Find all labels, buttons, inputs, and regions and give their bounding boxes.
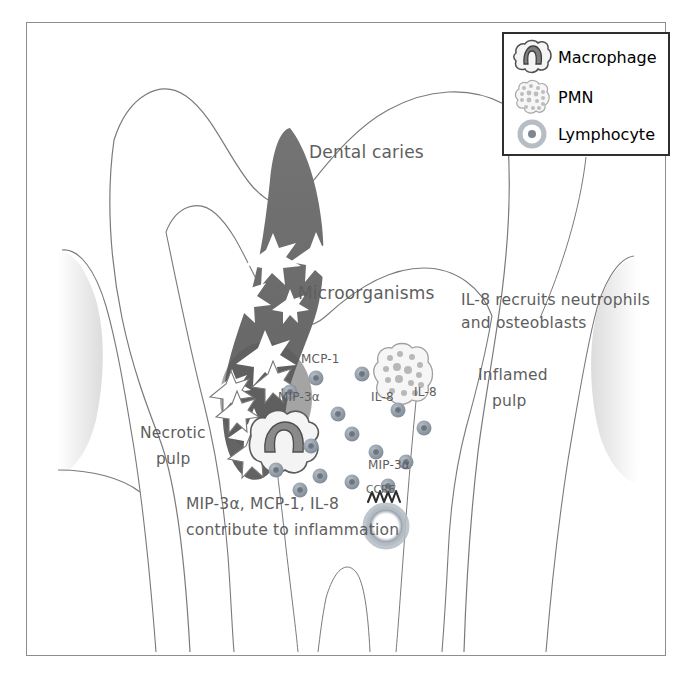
adjacent-tooth-left-inner bbox=[58, 470, 140, 492]
pulp-chamber-outline bbox=[166, 206, 492, 326]
legend-box: Macrophage PMN bbox=[502, 32, 670, 156]
legend-item-pmn: PMN bbox=[512, 79, 593, 115]
legend-label-lymphocyte: Lymphocyte bbox=[558, 125, 655, 144]
root-furcation-left bbox=[318, 598, 326, 652]
label-mip3a-upper: MIP-3α bbox=[278, 390, 320, 404]
legend-label-pmn: PMN bbox=[558, 88, 593, 107]
label-il8-a: IL-8 bbox=[371, 390, 394, 404]
label-necrotic-pulp-line1: Necrotic bbox=[140, 424, 206, 442]
label-il8-b: IL-8 bbox=[414, 385, 437, 399]
legend-item-lymphocyte: Lymphocyte bbox=[512, 116, 655, 152]
label-ccr6: CCR6 bbox=[366, 483, 395, 495]
figure-canvas: Macrophage PMN bbox=[0, 0, 692, 678]
lymphocyte-icon bbox=[512, 116, 552, 152]
label-inflamed-pulp-line1: Inflamed bbox=[478, 366, 548, 384]
label-contribute-line2: contribute to inflammation bbox=[186, 521, 399, 539]
label-contribute-line1: MIP-3α, MCP-1, IL-8 bbox=[186, 495, 339, 513]
legend-item-macrophage: Macrophage bbox=[512, 39, 657, 75]
label-microorganisms: Microorganisms bbox=[298, 283, 435, 303]
legend-label-macrophage: Macrophage bbox=[558, 48, 657, 67]
label-mcp1: MCP-1 bbox=[301, 352, 340, 366]
root-furcation bbox=[326, 567, 370, 652]
label-dental-caries: Dental caries bbox=[309, 142, 424, 162]
macrophage-icon bbox=[512, 39, 552, 75]
label-il8-recruits-line2: and osteoblasts bbox=[461, 314, 587, 332]
label-inflamed-pulp-line2: pulp bbox=[492, 392, 527, 410]
pmn-icon bbox=[512, 79, 552, 115]
gingiva-left bbox=[58, 252, 103, 476]
label-necrotic-pulp-line2: pulp bbox=[156, 450, 191, 468]
label-mip3a-lower: MIP-3α bbox=[368, 458, 410, 472]
label-il8-recruits-line1: IL-8 recruits neutrophils bbox=[461, 291, 650, 309]
